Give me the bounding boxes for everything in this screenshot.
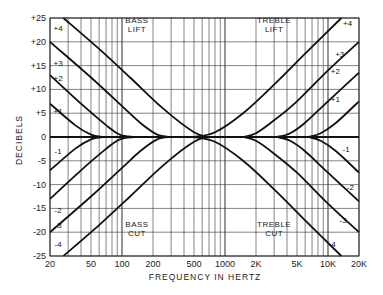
response-curves	[50, 18, 359, 256]
curve-treble-1	[309, 101, 359, 137]
region-label: TREBLE	[257, 16, 291, 25]
region-label: BASS	[125, 16, 148, 25]
x-tick-label: 500	[186, 259, 201, 269]
y-axis-ticks: +25+20+15+10+50-5-10-15-20-25	[31, 13, 46, 261]
x-tick-label: 20	[45, 259, 55, 269]
curve-label: +1	[331, 95, 341, 104]
curve-label: +2	[331, 67, 341, 76]
curve-label: +3	[54, 59, 64, 68]
x-tick-label: 20K	[351, 259, 367, 269]
curve-label: -4	[55, 240, 63, 249]
curve-label: -4	[329, 240, 337, 249]
curve-label: +3	[335, 50, 345, 59]
y-tick-label: -10	[33, 180, 46, 190]
x-tick-label: 50	[86, 259, 96, 269]
region-label: TREBLE	[257, 220, 291, 229]
curve-label: -3	[339, 216, 347, 225]
y-tick-label: -5	[38, 156, 46, 166]
curve-label: +2	[54, 74, 64, 83]
y-tick-label: 0	[41, 132, 46, 142]
curve-label: -1	[343, 145, 351, 154]
y-tick-label: +15	[31, 61, 46, 71]
region-label: BASS	[125, 220, 148, 229]
y-axis-label: DECIBELS	[14, 115, 24, 165]
y-tick-label: +10	[31, 84, 46, 94]
y-tick-label: +20	[31, 37, 46, 47]
region-label: LIFT	[265, 25, 283, 34]
x-tick-label: 2K	[250, 259, 261, 269]
region-label: CUT	[128, 229, 146, 238]
region-label: CUT	[265, 229, 283, 238]
curve-label: -3	[55, 221, 63, 230]
x-axis-label: FREQUENCY IN HERTZ	[149, 272, 262, 282]
x-tick-label: 5K	[291, 259, 302, 269]
tone-control-chart: +25+20+15+10+50-5-10-15-20-25 2050100200…	[0, 0, 383, 295]
y-tick-label: +25	[31, 13, 46, 23]
x-tick-label: 1000	[215, 259, 235, 269]
y-tick-label: +5	[36, 108, 46, 118]
curve-treble-1	[309, 137, 359, 173]
x-axis-ticks: 205010020050010002K5K10K20K	[45, 259, 367, 269]
curve-label: -2	[55, 206, 63, 215]
x-tick-label: 200	[145, 259, 160, 269]
curve-treble-4	[194, 18, 341, 137]
curve-label: -2	[347, 183, 355, 192]
y-tick-label: -15	[33, 203, 46, 213]
curve-label: +4	[343, 19, 353, 28]
curve-labels: +4+3+2+1-1-2-3-4+4+3+2+1-1-2-3-4	[54, 19, 355, 249]
curve-label: +4	[54, 24, 64, 33]
y-tick-label: -20	[33, 227, 46, 237]
region-label: LIFT	[128, 25, 146, 34]
x-tick-label: 100	[114, 259, 129, 269]
curve-label: +1	[54, 107, 64, 116]
curve-label: -1	[55, 147, 63, 156]
x-tick-label: 10K	[320, 259, 336, 269]
